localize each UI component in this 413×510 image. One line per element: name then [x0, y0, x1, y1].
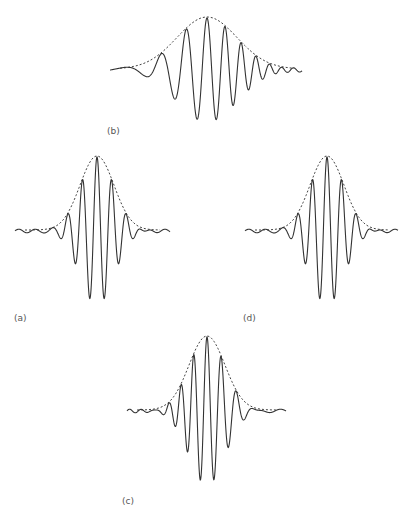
wave-packet-a [15, 156, 170, 299]
envelope-curve-c [137, 336, 276, 410]
wave-packet-c [127, 336, 286, 480]
envelope-curve-a [25, 156, 160, 230]
envelope-curve-d [255, 156, 388, 230]
envelope-curve-b [120, 17, 292, 68]
panel-label-a: (a) [14, 313, 27, 323]
oscillation-curve-d [245, 157, 398, 299]
oscillation-curve-b [110, 18, 302, 120]
panel-label-c: (c) [122, 496, 134, 506]
waveform-canvas [0, 0, 413, 510]
oscillation-curve-a [15, 157, 170, 299]
wave-packet-d [245, 156, 398, 299]
panel-label-d: (d) [243, 313, 256, 323]
panel-label-b: (b) [107, 126, 120, 136]
wave-packet-b [110, 17, 302, 120]
oscillation-curve-c [127, 337, 286, 480]
